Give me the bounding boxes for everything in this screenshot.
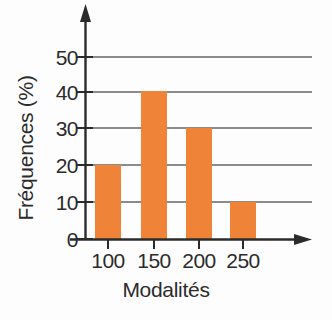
y-tick-text: 20 [56,154,78,178]
y-tick-text: 40 [56,81,78,105]
chart-plot-area [0,0,332,320]
bar-chart: 50 40 30 20 10 0 100 150 200 250 Modalit… [0,0,332,320]
y-tick-text: 0 [67,228,78,252]
bar-100 [95,165,121,239]
bar-150 [141,91,167,239]
y-axis-arrow [80,4,91,22]
y-tick-text: 10 [56,191,78,215]
bar-250 [230,202,256,239]
x-tick-label-250: 250 [213,250,273,271]
x-axis-title: Modalités [0,278,332,302]
x-axis-arrow [294,234,312,245]
y-tick-text: 30 [56,117,78,141]
y-axis-title: Fréquences (%) [14,48,38,248]
bar-200 [186,128,212,239]
y-tick-text: 50 [56,46,78,70]
